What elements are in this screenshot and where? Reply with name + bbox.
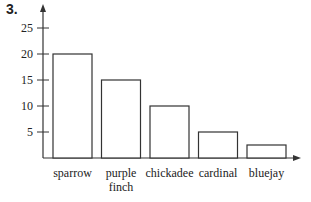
bar-purple-finch (102, 80, 141, 158)
category-label: sparrow (53, 166, 92, 180)
y-tick-label: 5 (27, 125, 33, 139)
category-label: finch (109, 180, 134, 194)
y-tick-label: 20 (21, 47, 33, 61)
y-tick-label: 10 (21, 99, 33, 113)
category-label: bluejay (249, 166, 284, 180)
y-axis-arrow-icon (40, 4, 46, 12)
y-tick-label: 15 (21, 73, 33, 87)
x-axis-arrow-icon (293, 155, 301, 161)
category-label: purple (106, 166, 137, 180)
category-label: cardinal (199, 166, 238, 180)
bar-chickadee (150, 106, 189, 158)
category-label: chickadee (146, 166, 194, 180)
bar-chart: 510152025sparrowpurplefinchchickadeecard… (0, 0, 311, 202)
bar-cardinal (199, 132, 238, 158)
bar-bluejay (247, 145, 286, 158)
bar-sparrow (53, 54, 92, 158)
y-tick-label: 25 (21, 21, 33, 35)
